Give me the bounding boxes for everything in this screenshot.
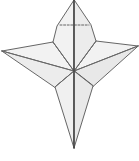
- figure-canvas: [0, 0, 139, 161]
- star-polyhedron-drawing: [0, 0, 139, 161]
